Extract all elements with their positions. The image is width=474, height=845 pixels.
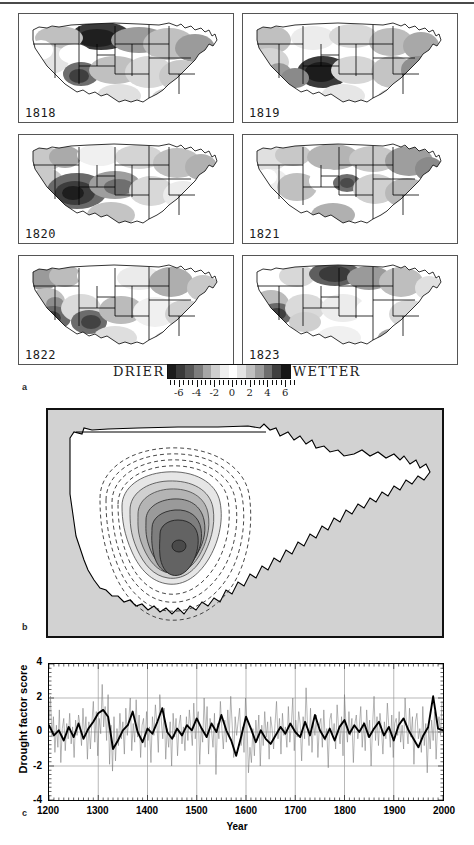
x-tick-label: 1500 [185,805,207,816]
colorbar-tick-label: 2 [247,387,253,398]
map-year-label: 1822 [25,348,56,362]
colorbar-tick [192,380,193,385]
colorbar-band-3 [194,365,203,378]
colorbar-tick [232,380,233,387]
colorbar-tick [254,380,255,385]
colorbar-tick-label: 4 [264,387,270,398]
x-tick-label: 1700 [284,805,306,816]
map-panel-1819[interactable]: 1819 [242,13,458,123]
colorbar-tick [197,380,198,387]
map-panel-1823[interactable]: 1823 [242,255,458,365]
x-tick-label: 1400 [136,805,158,816]
y-tick-label: 0 [16,725,42,736]
colorbar-tick [205,380,206,385]
colorbar-band-4 [203,365,212,378]
colorbar-tick-label: -6 [174,387,184,398]
colorbar-tick-labels: -6-4-20246 [170,387,294,401]
x-tick-label: 1200 [37,805,59,816]
x-tick-label: 1600 [235,805,257,816]
colorbar-band-0 [168,365,177,378]
panel-b-loading-map[interactable] [46,408,444,638]
colorbar-tick [267,380,268,387]
map-year-label: 1818 [25,106,56,120]
colorbar-drier-label: DRIER [113,364,165,379]
colorbar-tick [281,380,282,385]
map-year-label: 1823 [249,348,280,362]
panel-letter-a: a [22,382,27,392]
y-tick-label: 2 [16,691,42,702]
colorbar-legend: DRIER WETTER -6-4-20246 [0,364,474,404]
map-panel-1822[interactable]: 1822 [18,255,234,365]
colorbar-tick [188,380,189,385]
map-year-label: 1819 [249,106,280,120]
colorbar-tick [236,380,237,385]
colorbar-band-9 [246,365,255,378]
panel-letter-b: b [22,622,28,632]
colorbar-tick-label: 0 [229,387,235,398]
colorbar-tick [174,380,175,385]
colorbar-tick-label: 6 [282,387,288,398]
panel-a-map-grid: 1818 [18,13,458,365]
loading-contour-map [48,410,442,636]
map-panel-1820[interactable]: 1820 [18,134,234,244]
x-tick-label: 1300 [86,805,108,816]
panel-c-timeseries: Drought factor score Year -4-20241200130… [0,655,474,845]
colorbar-tick [170,380,171,385]
colorbar-tick [263,380,264,385]
colorbar-tick [272,380,273,385]
colorbar-band-12 [272,365,281,378]
colorbar-tick [285,380,286,387]
colorbar-tick [219,380,220,385]
colorbar-band-6 [220,365,229,378]
map-year-label: 1821 [249,227,280,241]
colorbar-tick-label: -2 [209,387,219,398]
top-rule [0,2,474,4]
colorbar-band-2 [185,365,194,378]
colorbar-row: DRIER WETTER [113,364,361,379]
colorbar-tick [250,380,251,387]
colorbar-gradient-strip [167,364,291,379]
figure-root: 1818 [0,0,474,845]
colorbar-tick [214,380,215,387]
colorbar-band-11 [264,365,273,378]
x-axis-label: Year [0,821,474,832]
colorbar-wetter-label: WETTER [293,364,361,379]
colorbar-tick [259,380,260,385]
colorbar-band-10 [255,365,264,378]
map-year-label: 1820 [25,227,56,241]
colorbar-band-7 [229,365,238,378]
colorbar-tick-label: -4 [192,387,202,398]
colorbar-tick [228,380,229,385]
colorbar-ticks [170,380,294,387]
timeseries-svg [49,664,443,800]
colorbar-tick [201,380,202,385]
colorbar-tick [223,380,224,385]
colorbar-tick [290,380,291,385]
x-tick-label: 2000 [433,805,455,816]
map-panel-1818[interactable]: 1818 [18,13,234,123]
colorbar-tick [183,380,184,385]
colorbar-tick [210,380,211,385]
colorbar-tick [241,380,242,385]
y-tick-label: -4 [16,794,42,805]
map-panel-1821[interactable]: 1821 [242,134,458,244]
colorbar-band-13 [281,365,290,378]
timeseries-plot-area[interactable] [48,663,444,801]
y-tick-label: -2 [16,760,42,771]
x-tick-label: 1900 [383,805,405,816]
colorbar-band-1 [176,365,185,378]
colorbar-tick [245,380,246,385]
colorbar-tick [276,380,277,385]
panel-letter-c: c [22,808,27,818]
colorbar-band-8 [237,365,246,378]
colorbar-band-5 [211,365,220,378]
y-tick-label: 4 [16,656,42,667]
x-tick-label: 1800 [334,805,356,816]
colorbar-tick [294,380,295,385]
colorbar-tick [179,380,180,387]
